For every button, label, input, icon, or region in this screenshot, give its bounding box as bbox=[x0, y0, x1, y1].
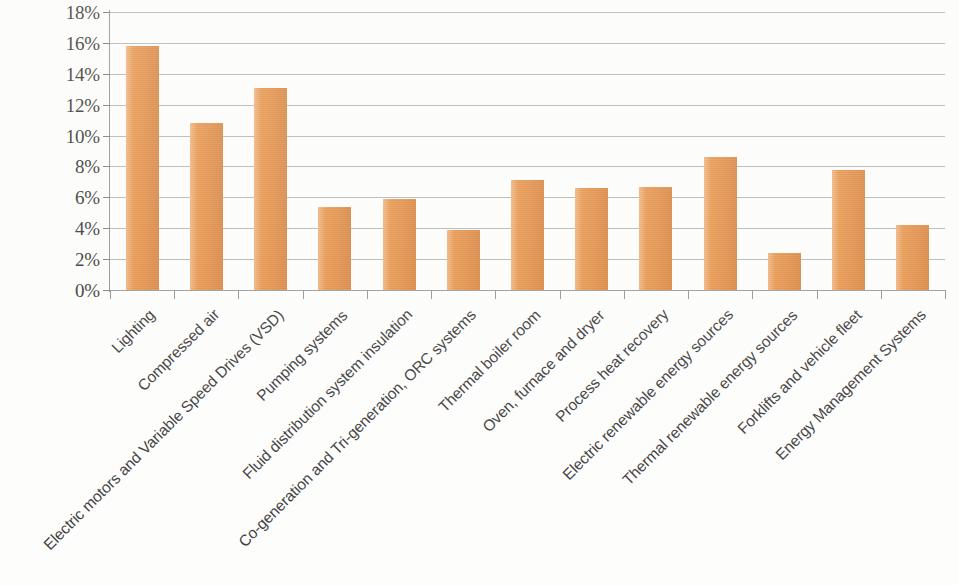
gridline-18% bbox=[110, 12, 945, 13]
y-tick-mark bbox=[103, 105, 110, 106]
y-tick-label: 18% bbox=[4, 3, 100, 22]
bar bbox=[383, 199, 416, 290]
y-tick-mark bbox=[103, 136, 110, 137]
y-tick-mark bbox=[103, 43, 110, 44]
y-tick-mark bbox=[103, 74, 110, 75]
y-tick-mark bbox=[103, 259, 110, 260]
y-tick-label: 12% bbox=[4, 95, 100, 114]
y-tick-label: 14% bbox=[4, 64, 100, 83]
gridline-14% bbox=[110, 74, 945, 75]
x-tick-mark bbox=[945, 290, 946, 299]
x-tick-mark bbox=[495, 290, 496, 299]
x-axis-category-label: Oven, furnace and dryer bbox=[479, 306, 608, 435]
x-axis-category-label: Co-generation and Tri-generation, ORC sy… bbox=[235, 306, 480, 551]
y-tick-mark bbox=[103, 290, 110, 291]
bar bbox=[896, 225, 929, 290]
bar bbox=[575, 188, 608, 290]
x-tick-mark bbox=[688, 290, 689, 299]
bar bbox=[190, 123, 223, 290]
x-tick-mark bbox=[303, 290, 304, 299]
bar bbox=[447, 230, 480, 290]
y-tick-label: 6% bbox=[4, 188, 100, 207]
x-tick-mark bbox=[367, 290, 368, 299]
y-tick-mark bbox=[103, 166, 110, 167]
y-tick-label: 2% bbox=[4, 250, 100, 269]
y-tick-mark bbox=[103, 228, 110, 229]
gridline-10% bbox=[110, 136, 945, 137]
y-tick-label: 16% bbox=[4, 33, 100, 52]
x-tick-mark bbox=[752, 290, 753, 299]
x-axis-category-label: Lighting bbox=[108, 306, 159, 357]
plot-area bbox=[110, 12, 945, 290]
x-axis-category-label: Process heat recovery bbox=[552, 306, 672, 426]
bar bbox=[704, 157, 737, 290]
bar bbox=[126, 46, 159, 290]
x-axis-ticks bbox=[110, 290, 945, 299]
y-tick-label: 0% bbox=[4, 281, 100, 300]
x-axis-category-label: Forklifts and vehicle fleet bbox=[734, 306, 865, 437]
bar bbox=[254, 88, 287, 290]
gridline-12% bbox=[110, 105, 945, 106]
x-tick-mark bbox=[624, 290, 625, 299]
bar bbox=[768, 253, 801, 290]
y-tick-mark bbox=[103, 12, 110, 13]
y-tick-mark bbox=[103, 197, 110, 198]
bar bbox=[511, 180, 544, 290]
bar-chart: 0%2%4%6%8%10%12%14%16%18% LightingCompre… bbox=[0, 0, 959, 585]
y-tick-label: 4% bbox=[4, 219, 100, 238]
gridline-8% bbox=[110, 166, 945, 167]
bar bbox=[318, 207, 351, 290]
x-axis-category-label: Electric motors and Variable Speed Drive… bbox=[40, 306, 287, 553]
x-tick-mark bbox=[238, 290, 239, 299]
x-tick-mark bbox=[560, 290, 561, 299]
x-tick-mark bbox=[174, 290, 175, 299]
gridline-16% bbox=[110, 43, 945, 44]
y-tick-label: 10% bbox=[4, 126, 100, 145]
x-tick-mark bbox=[881, 290, 882, 299]
x-axis-labels: LightingCompressed airElectric motors an… bbox=[0, 300, 959, 585]
x-tick-mark bbox=[431, 290, 432, 299]
x-tick-mark bbox=[110, 290, 111, 299]
bar bbox=[832, 170, 865, 290]
x-tick-mark bbox=[817, 290, 818, 299]
y-tick-label: 8% bbox=[4, 157, 100, 176]
bar bbox=[639, 187, 672, 290]
